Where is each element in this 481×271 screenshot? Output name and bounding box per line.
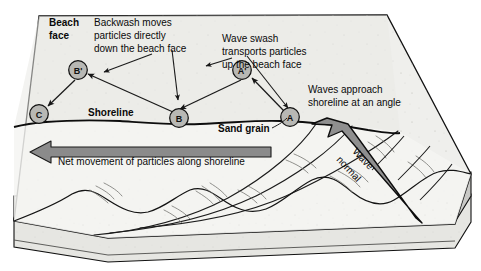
approach-line1: Waves approach (308, 84, 383, 95)
longshore-drift-diagram: Wave normal B' A' C B (0, 0, 481, 271)
backwash-line2: particles directly (94, 30, 166, 41)
shoreline-label: Shoreline (88, 107, 134, 118)
marker-c: C (30, 105, 49, 124)
backwash-line1: Backwash moves (94, 17, 172, 28)
marker-c-label: C (36, 110, 43, 120)
marker-a: A (281, 108, 300, 127)
approach-line2: shoreline at an angle (308, 97, 401, 108)
beach-face-line2: face (49, 30, 69, 41)
marker-b-prime: B' (69, 61, 88, 80)
marker-a-label: A (287, 113, 294, 123)
diagram-canvas: Wave normal B' A' C B (0, 0, 481, 271)
swash-line2: transports particles (222, 46, 306, 57)
sand-grain-label: Sand grain (218, 123, 270, 134)
marker-b: B (170, 109, 189, 128)
swash-line3: up the beach face (222, 59, 302, 70)
marker-b-prime-label: B' (74, 66, 83, 76)
beach-face-line1: Beach (49, 17, 79, 28)
net-movement-label: Net movement of particles along shorelin… (58, 156, 245, 167)
marker-b-label: B (176, 114, 183, 124)
swash-line1: Wave swash (222, 33, 278, 44)
backwash-line3: down the beach face (94, 43, 187, 54)
